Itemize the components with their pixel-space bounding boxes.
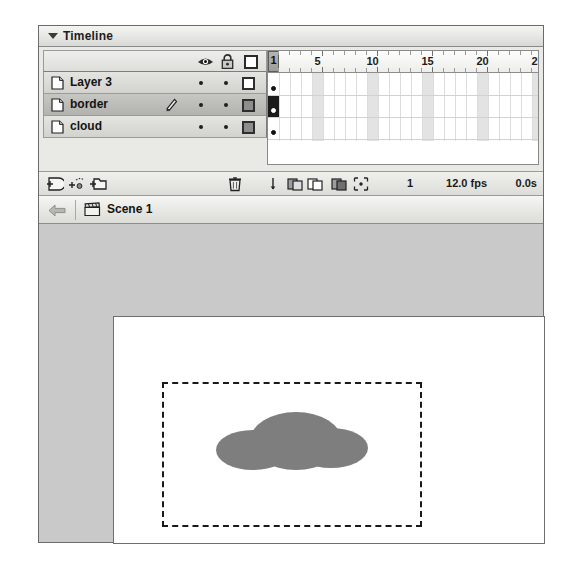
layer-list: Layer 3 border [43,50,267,165]
frame-grid[interactable] [268,73,538,165]
frame-gridline [411,73,412,141]
ruler-tick [289,68,290,72]
layer-lock-toggle[interactable] [224,81,228,85]
layer-page-icon [51,98,64,112]
frame-rate-indicator[interactable]: 12.0 fps [417,177,487,189]
ruler-tick [454,51,455,55]
frame-ruler[interactable]: 1 510152025 [268,51,538,73]
modify-onion-markers-icon[interactable] [353,176,369,192]
frame-gridline [301,73,302,141]
layer-page-icon [51,120,64,134]
ruler-tick [498,51,499,55]
ruler-tick [399,51,400,55]
ruler-tick [432,67,433,72]
layer-name-label: Layer 3 [70,75,112,89]
ruler-frame-number: 5 [307,55,329,67]
ruler-tick [454,68,455,72]
ruler-tick [410,51,411,55]
frame-shaded-column [422,73,433,141]
add-motion-guide-icon[interactable] [67,176,86,192]
layer-row-layer-3[interactable]: Layer 3 [43,72,267,94]
cloud-shape[interactable] [216,412,368,470]
ruler-tick [322,67,323,72]
frame-gridline [422,73,423,141]
frame-gridline [532,73,533,141]
layer-lock-toggle[interactable] [224,103,228,107]
timeline-panel-body: Layer 3 border [39,47,543,195]
frame-gridline [323,73,324,141]
frame-gridline [455,73,456,141]
ruler-tick [366,68,367,72]
frame-gridline [488,73,489,141]
frame-gridline [444,73,445,141]
document-window: Timeline [38,25,544,543]
stage[interactable] [113,316,545,544]
layer-lock-toggle[interactable] [224,125,228,129]
ruler-tick [399,68,400,72]
ruler-tick [355,68,356,72]
outline-icon[interactable] [244,55,258,69]
ruler-frame-number: 15 [417,55,439,67]
layer-outline-swatch[interactable] [242,121,255,134]
frame-gridline [466,73,467,141]
layer-visibility-toggle[interactable] [199,81,203,85]
ruler-tick [278,51,279,55]
frame-row-divider [268,139,538,140]
ruler-tick [388,68,389,72]
ruler-frame-number: 20 [472,55,494,67]
back-arrow-icon[interactable] [48,204,66,217]
ruler-tick [355,51,356,55]
ruler-tick [476,68,477,72]
triangle-down-icon[interactable] [48,33,58,39]
keyframe-cell[interactable] [268,73,279,95]
layer-name-label: border [70,97,108,111]
ruler-tick [300,51,301,55]
center-puff [250,412,342,470]
border-rectangle[interactable] [162,382,422,527]
scene-clapperboard-icon [84,202,101,217]
insert-layer-icon[interactable] [45,176,64,192]
frame-row-divider [268,117,538,118]
onion-skin-outlines-icon[interactable] [307,176,323,192]
edit-multiple-frames-icon[interactable] [331,176,347,192]
layer-outline-swatch[interactable] [242,77,255,90]
timeline-panel-titlebar[interactable]: Timeline [39,26,543,47]
playhead-frame-number: 1 [268,54,279,66]
ruler-tick [487,67,488,72]
eye-icon[interactable] [197,55,214,68]
ruler-tick [410,68,411,72]
layer-row-border[interactable]: border [43,94,267,116]
layer-name-label: cloud [70,119,102,133]
onion-skin-icon[interactable] [287,176,303,192]
layer-visibility-toggle[interactable] [199,103,203,107]
keyframe-cell[interactable] [268,117,279,139]
frame-gridline [521,73,522,141]
pencil-icon [165,98,178,112]
layer-outline-swatch[interactable] [242,99,255,112]
work-area[interactable] [39,224,543,542]
layer-row-cloud[interactable]: cloud [43,116,267,138]
frame-gridline [279,73,280,141]
timeline-frames-area[interactable]: 1 510152025 [267,50,539,165]
ruler-tick [289,51,290,55]
ruler-tick [509,68,510,72]
frame-gridline [433,73,434,141]
trash-icon[interactable] [228,176,242,192]
keyframe-cell-selected[interactable] [268,95,279,117]
center-frame-icon[interactable] [269,176,277,192]
breadcrumb-divider [75,200,76,220]
ruler-frame-number: 25 [527,55,540,67]
frame-gridline [477,73,478,141]
elapsed-time-indicator: 0.0s [485,177,537,189]
ruler-tick [443,68,444,72]
insert-layer-folder-icon[interactable] [89,176,108,192]
scene-name-label[interactable]: Scene 1 [107,202,152,216]
layer-visibility-toggle[interactable] [199,125,203,129]
ruler-tick [520,68,521,72]
frame-gridline [499,73,500,141]
flash-authoring-window: Timeline [0,0,576,566]
frame-shaded-column [532,73,539,141]
ruler-tick [498,68,499,72]
frame-gridline [378,73,379,141]
lock-icon[interactable] [221,54,234,69]
